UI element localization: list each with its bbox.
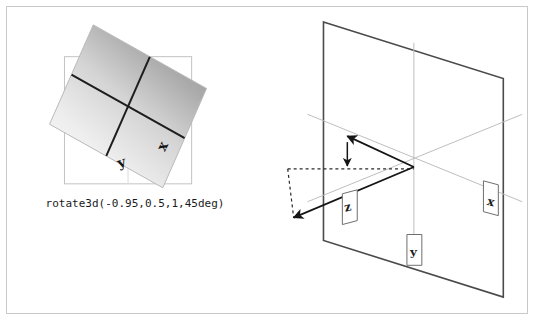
axis-label-box-z: z [342, 190, 357, 225]
axis-label-box-y: y [407, 235, 422, 266]
screenshot-root: y x rotate3d(-0.95,0.5,1,45deg) [0, 0, 534, 320]
rotation-axis-3d-diagram: z y x [265, 7, 529, 313]
page-frame: y x rotate3d(-0.95,0.5,1,45deg) [6, 6, 528, 314]
right-panel: z y x [265, 7, 529, 313]
rotation-axis-vector-upper [347, 136, 414, 167]
rotate3d-caption: rotate3d(-0.95,0.5,1,45deg) [25, 197, 245, 210]
rotate3d-result-preview: y x [7, 7, 265, 313]
axis-label-box-x: x [483, 181, 498, 216]
axis-label-y: y [409, 245, 418, 259]
projection-dashed-diagonal [288, 169, 294, 218]
left-panel: y x rotate3d(-0.95,0.5,1,45deg) [7, 7, 265, 313]
